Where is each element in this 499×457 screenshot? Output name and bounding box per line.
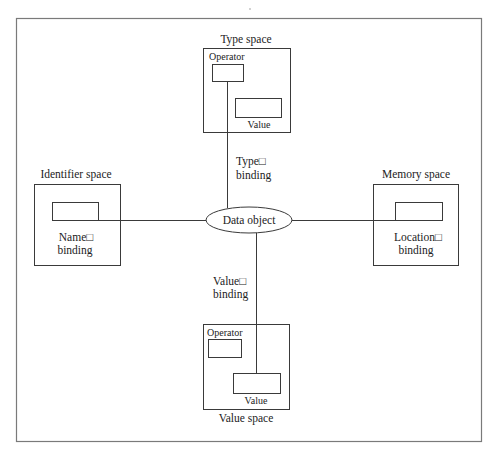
location-binding-line2: binding: [398, 244, 433, 257]
name-box: [53, 203, 99, 221]
stray-dot: [249, 8, 251, 10]
location-box: [396, 203, 443, 221]
value-binding-line2: binding: [213, 288, 248, 301]
memory-space-title: Memory space: [382, 168, 450, 181]
value-space: Operator Value Value space: [204, 325, 290, 426]
value-value-label: Value: [245, 395, 268, 406]
type-space: Type space Operator Value: [204, 33, 291, 133]
type-binding-line2: binding: [236, 169, 271, 182]
data-object: Data object: [206, 207, 292, 233]
location-binding-line1: Location□: [394, 231, 442, 243]
data-object-binding-diagram: Type space Operator Value Type□ binding …: [0, 0, 499, 457]
type-space-title: Type space: [220, 33, 271, 46]
memory-space: Memory space Location□ binding: [374, 168, 459, 266]
type-binding-line1: Type□: [236, 155, 266, 168]
data-object-label: Data object: [223, 214, 276, 227]
value-binding-line1: Value□: [213, 275, 246, 287]
identifier-space-title: Identifier space: [40, 168, 111, 181]
type-operator-box: [213, 65, 244, 82]
value-operator-label: Operator: [207, 327, 243, 338]
type-value-label: Value: [248, 119, 271, 130]
name-binding-line1: Name□: [59, 231, 93, 243]
name-binding-line2: binding: [57, 244, 92, 257]
value-value-box: [234, 374, 281, 394]
value-space-title: Value space: [219, 412, 274, 425]
value-operator-box: [209, 340, 242, 358]
type-value-box: [236, 99, 282, 118]
type-operator-label: Operator: [209, 51, 245, 62]
identifier-space: Identifier space Name□ binding: [35, 168, 121, 266]
